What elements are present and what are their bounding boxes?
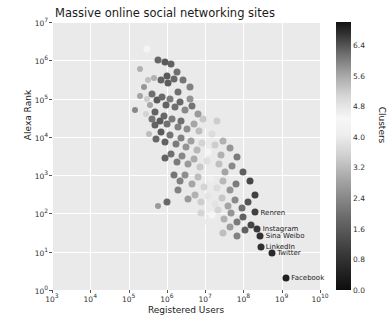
scatter-point	[240, 169, 247, 176]
scatter-point	[218, 151, 225, 158]
scatter-point	[187, 137, 194, 144]
scatter-point	[218, 194, 225, 201]
scatter-point	[228, 163, 235, 170]
x-tick-label: 104	[84, 292, 97, 304]
scatter-point	[251, 208, 258, 215]
scatter-point	[215, 207, 222, 214]
scatter-point	[132, 107, 138, 113]
gridline-horizontal	[52, 60, 320, 61]
scatter-point	[240, 214, 247, 221]
x-tick-mark	[243, 290, 244, 293]
scatter-point	[163, 198, 170, 205]
scatter-point	[233, 180, 240, 187]
x-tick-label: 108	[237, 292, 250, 304]
scatter-point	[178, 117, 185, 124]
scatter-point	[182, 107, 189, 114]
scatter-point	[220, 137, 227, 144]
gridline-vertical	[52, 22, 53, 290]
colorbar-tick-label: 5.6	[353, 71, 365, 80]
gridline-vertical	[129, 22, 130, 290]
colorbar-tick-label: 1.6	[353, 224, 365, 233]
scatter-point	[196, 128, 203, 135]
scatter-point	[146, 131, 152, 137]
scatter-point	[211, 142, 218, 149]
scatter-point	[222, 169, 229, 176]
gridline-vertical	[90, 22, 91, 290]
scatter-point	[173, 68, 180, 75]
gridline-vertical	[243, 22, 244, 290]
x-tick-label: 106	[160, 292, 173, 304]
scatter-point	[168, 60, 175, 67]
scatter-point	[209, 166, 216, 173]
scatter-point	[254, 225, 261, 232]
y-tick-label: 107	[0, 16, 48, 28]
scatter-point	[190, 155, 197, 162]
scatter-point	[220, 230, 227, 237]
x-tick-label: 103	[45, 292, 58, 304]
scatter-point	[186, 95, 193, 102]
scatter-point	[162, 138, 169, 145]
scatter-point	[147, 102, 153, 108]
scatter-point	[163, 101, 170, 108]
scatter-point	[152, 135, 159, 142]
scatter-point	[169, 115, 176, 122]
scatter-point	[175, 88, 182, 95]
y-tick-label: 102	[0, 208, 48, 220]
y-tick-mark	[49, 99, 52, 100]
scatter-point	[198, 198, 205, 205]
scatter-point	[200, 115, 207, 122]
scatter-point	[137, 66, 143, 72]
scatter-point	[208, 130, 215, 137]
scatter-point	[170, 76, 177, 83]
y-tick-mark	[49, 137, 52, 138]
colorbar-tick-label: 6.4	[353, 40, 365, 49]
annotation-label: Twitter	[277, 249, 300, 257]
scatter-point	[198, 210, 205, 217]
scatter-point	[176, 178, 183, 185]
y-tick-mark	[49, 60, 52, 61]
scatter-point	[242, 227, 249, 234]
scatter-point	[141, 84, 147, 90]
scatter-point	[152, 108, 159, 115]
colorbar-tick-label: 3.2	[353, 163, 365, 172]
x-tick-label: 105	[122, 292, 135, 304]
gridline-vertical	[205, 22, 206, 290]
y-tick-mark	[49, 213, 52, 214]
scatter-point	[234, 153, 241, 160]
scatter-point	[184, 195, 191, 202]
scatter-point	[188, 180, 195, 187]
scatter-point	[257, 244, 264, 251]
scatter-point	[179, 77, 186, 84]
scatter-point	[170, 172, 177, 179]
y-tick-label: 100	[0, 284, 48, 296]
x-tick-mark	[167, 290, 168, 293]
y-tick-mark	[49, 252, 52, 253]
y-tick-mark	[49, 175, 52, 176]
scatter-point	[168, 150, 175, 157]
scatter-point	[184, 126, 191, 133]
gridline-horizontal	[52, 137, 320, 138]
scatter-point	[215, 160, 222, 167]
scatter-point	[205, 218, 212, 225]
scatter-point	[190, 120, 197, 127]
scatter-point	[157, 129, 164, 136]
scatter-point	[166, 95, 173, 102]
x-tick-mark	[320, 290, 321, 293]
scatter-point	[177, 134, 184, 141]
scatter-point	[182, 143, 189, 150]
annotation-label: Facebook	[291, 274, 324, 282]
scatter-point	[174, 124, 181, 131]
scatter-point	[163, 72, 170, 79]
scatter-point	[173, 159, 180, 166]
y-axis-title: Alexa Rank	[23, 35, 33, 195]
colorbar-tick-label: 2.4	[353, 194, 365, 203]
scatter-point	[213, 117, 220, 124]
scatter-point	[182, 172, 189, 179]
x-tick-label: 107	[198, 292, 211, 304]
x-tick-mark	[205, 290, 206, 293]
scatter-point	[152, 122, 159, 129]
scatter-point	[247, 178, 254, 185]
y-tick-mark	[49, 22, 52, 23]
scatter-point	[203, 157, 210, 164]
scatter-point	[228, 210, 235, 217]
